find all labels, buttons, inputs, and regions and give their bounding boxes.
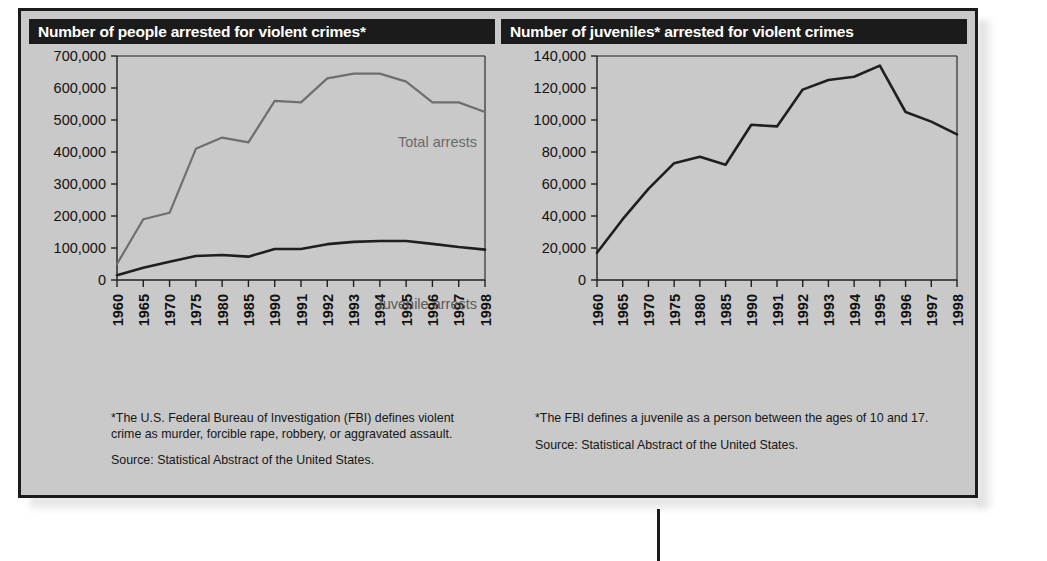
footnotes-right: *The FBI defines a juvenile as a person …: [501, 411, 967, 453]
svg-text:1975: 1975: [667, 294, 683, 326]
svg-text:140,000: 140,000: [534, 48, 586, 64]
figure-frame: Number of people arrested for violent cr…: [18, 8, 978, 498]
svg-text:60,000: 60,000: [542, 176, 586, 192]
svg-text:1990: 1990: [267, 294, 283, 326]
footnote-definition-right: *The FBI defines a juvenile as a person …: [535, 411, 959, 427]
svg-text:1960: 1960: [110, 294, 126, 326]
svg-text:0: 0: [578, 272, 586, 288]
svg-text:1994: 1994: [847, 294, 863, 326]
svg-text:120,000: 120,000: [534, 80, 586, 96]
footnotes-left: *The U.S. Federal Bureau of Investigatio…: [29, 411, 495, 469]
svg-text:1985: 1985: [241, 294, 257, 326]
svg-text:100,000: 100,000: [54, 240, 106, 256]
plot-area-left: 0100,000200,000300,000400,000500,000600,…: [29, 44, 495, 374]
series-label-juvenile-arrests: Juvenile arrests: [375, 296, 477, 312]
chart-panel-total-arrests: Number of people arrested for violent cr…: [29, 19, 495, 493]
svg-text:1991: 1991: [770, 294, 786, 326]
svg-text:1992: 1992: [795, 294, 811, 326]
footnote-source-left: Source: Statistical Abstract of the Unit…: [111, 453, 487, 469]
svg-text:1985: 1985: [718, 294, 734, 326]
svg-text:1965: 1965: [136, 294, 152, 326]
svg-text:100,000: 100,000: [534, 112, 586, 128]
svg-text:700,000: 700,000: [54, 48, 106, 64]
svg-text:200,000: 200,000: [54, 208, 106, 224]
svg-text:1970: 1970: [162, 294, 178, 326]
svg-text:0: 0: [98, 272, 106, 288]
svg-text:300,000: 300,000: [54, 176, 106, 192]
svg-text:400,000: 400,000: [54, 144, 106, 160]
plot-area-right: 020,00040,00060,00080,000100,000120,0001…: [501, 44, 967, 374]
series-label-total-arrests: Total arrests: [398, 134, 477, 150]
chart-panel-juvenile-arrests: Number of juveniles* arrested for violen…: [501, 19, 967, 493]
svg-text:1998: 1998: [478, 294, 494, 326]
svg-text:1993: 1993: [346, 294, 362, 326]
svg-text:1997: 1997: [924, 294, 940, 326]
chart-title-right: Number of juveniles* arrested for violen…: [501, 19, 967, 44]
svg-text:40,000: 40,000: [542, 208, 586, 224]
chart-title-left: Number of people arrested for violent cr…: [29, 19, 495, 44]
svg-text:1960: 1960: [590, 294, 606, 326]
svg-text:1990: 1990: [744, 294, 760, 326]
svg-text:1970: 1970: [641, 294, 657, 326]
svg-text:1975: 1975: [188, 294, 204, 326]
svg-text:1991: 1991: [294, 294, 310, 326]
footnote-source-right: Source: Statistical Abstract of the Unit…: [535, 438, 959, 454]
footnote-definition-left: *The U.S. Federal Bureau of Investigatio…: [111, 411, 487, 442]
svg-text:1965: 1965: [615, 294, 631, 326]
svg-text:1995: 1995: [872, 294, 888, 326]
svg-text:80,000: 80,000: [542, 144, 586, 160]
svg-text:1992: 1992: [320, 294, 336, 326]
svg-text:600,000: 600,000: [54, 80, 106, 96]
svg-text:1980: 1980: [215, 294, 231, 326]
figure-drop-shadow-right: [978, 20, 994, 506]
svg-text:500,000: 500,000: [54, 112, 106, 128]
svg-text:1996: 1996: [898, 294, 914, 326]
svg-text:20,000: 20,000: [542, 240, 586, 256]
figure-bottom-connector: [657, 509, 1001, 561]
svg-text:1998: 1998: [950, 294, 966, 326]
svg-text:1980: 1980: [692, 294, 708, 326]
line-chart-right: 020,00040,00060,00080,000100,000120,0001…: [501, 44, 967, 374]
line-chart-left: 0100,000200,000300,000400,000500,000600,…: [29, 44, 495, 374]
svg-text:1993: 1993: [821, 294, 837, 326]
